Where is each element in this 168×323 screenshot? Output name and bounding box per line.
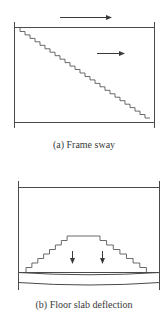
figure-b-caption: (b) Floor slab deflection xyxy=(0,299,168,310)
diagram-canvas xyxy=(0,0,168,323)
diagonal-crack-line xyxy=(20,28,150,118)
load-arrow-icon xyxy=(73,251,103,263)
slab-deflection-figure xyxy=(18,181,160,290)
figure-a-caption: (a) Frame sway xyxy=(0,139,168,150)
frame-sway-frame xyxy=(14,22,155,128)
stepped-crack-line xyxy=(26,236,146,272)
deflected-slab xyxy=(18,273,160,286)
frame-sway-figure xyxy=(14,18,155,129)
sway-arrow-icon xyxy=(60,18,124,54)
